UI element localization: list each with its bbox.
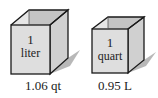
liter-cube-label-unit: liter — [21, 46, 40, 60]
cubes-illustration: 1 liter 1 quart — [0, 0, 158, 98]
liter-equivalent-caption: 1.06 qt — [25, 78, 61, 94]
quart-cube-label-number: 1 — [107, 35, 114, 50]
quart-cube-label-unit: quart — [98, 49, 123, 63]
liter-cube-label-number: 1 — [27, 32, 34, 47]
quart-equivalent-caption: 0.95 L — [98, 78, 132, 94]
liter-cube: 1 liter — [11, 10, 80, 74]
quart-cube: 1 quart — [92, 17, 156, 73]
